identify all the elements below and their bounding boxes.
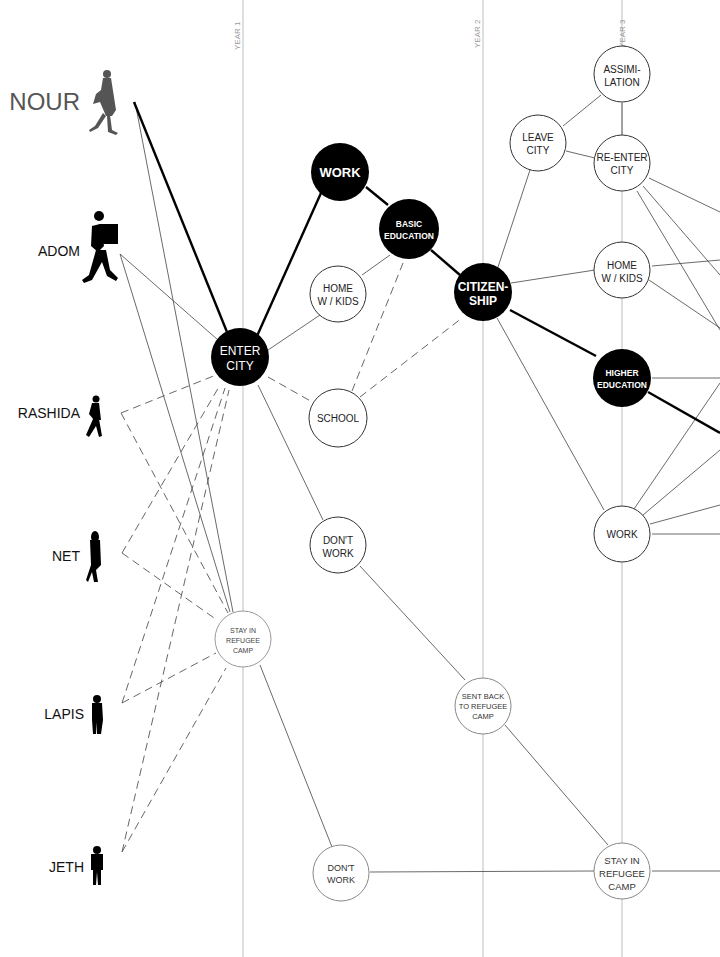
svg-text:CAMP: CAMP	[233, 647, 254, 654]
svg-text:JETH: JETH	[49, 859, 84, 875]
svg-text:CITIZEN-: CITIZEN-	[458, 280, 509, 294]
svg-text:NET: NET	[52, 548, 80, 564]
node-sent-back[interactable]: SENT BACK TO REFUGEE CAMP	[455, 678, 511, 734]
svg-text:CITY: CITY	[226, 359, 253, 373]
path-diagram: YEAR 1 YEAR 2 YEAR 3	[0, 0, 720, 957]
node-stay-camp-2[interactable]: STAY IN REFUGEE CAMP	[594, 843, 650, 899]
person-net[interactable]: NET	[52, 531, 101, 582]
node-dont-work-2[interactable]: DON'T WORK	[313, 845, 369, 901]
node-basic-education[interactable]: BASIC EDUCATION	[379, 199, 439, 259]
year2-label: YEAR 2	[473, 19, 482, 48]
node-assimilation[interactable]: ASSIMI- LATION	[594, 46, 650, 102]
node-work-1[interactable]: WORK	[311, 143, 369, 201]
svg-text:CITY: CITY	[611, 165, 634, 176]
person-lapis[interactable]: LAPIS	[44, 695, 103, 734]
man-carrying-box-icon	[82, 211, 118, 283]
node-home-kids-1[interactable]: HOME W / KIDS	[310, 266, 366, 322]
boy-standing-icon	[91, 846, 103, 885]
node-re-enter-city[interactable]: RE-ENTER CITY	[594, 135, 650, 191]
person-nour[interactable]: NOUR	[9, 70, 118, 135]
svg-text:LAPIS: LAPIS	[44, 706, 84, 722]
year-labels: YEAR 1 YEAR 2 YEAR 3	[233, 19, 627, 50]
svg-text:RASHIDA: RASHIDA	[18, 405, 81, 421]
svg-text:EDUCATION: EDUCATION	[384, 231, 434, 241]
svg-text:TO REFUGEE: TO REFUGEE	[459, 702, 508, 711]
child-standing-icon	[92, 695, 103, 734]
svg-text:ENTER: ENTER	[220, 344, 261, 358]
svg-text:BASIC: BASIC	[396, 219, 422, 229]
node-higher-education[interactable]: HIGHER EDUCATION	[593, 349, 651, 407]
svg-text:CITY: CITY	[527, 145, 550, 156]
node-work-2[interactable]: WORK	[594, 506, 650, 562]
svg-text:HIGHER: HIGHER	[605, 368, 638, 378]
girl-walking-icon	[86, 396, 102, 438]
svg-text:HOME: HOME	[323, 283, 353, 294]
svg-text:WORK: WORK	[606, 529, 637, 540]
svg-text:CAMP: CAMP	[472, 712, 494, 721]
svg-text:WORK: WORK	[322, 548, 353, 559]
people: NOUR ADOM RASHIDA	[9, 70, 118, 885]
svg-text:WORK: WORK	[327, 875, 355, 885]
svg-text:CAMP: CAMP	[608, 881, 635, 892]
nodes: ENTER CITY WORK BASIC EDUCATION CITIZEN-…	[211, 46, 651, 901]
node-leave-city[interactable]: LEAVE CITY	[510, 115, 566, 171]
node-stay-camp-1[interactable]: STAY IN REFUGEE CAMP	[215, 611, 271, 667]
svg-text:LEAVE: LEAVE	[522, 132, 554, 143]
edges-dashed	[121, 263, 462, 852]
person-adom[interactable]: ADOM	[38, 211, 118, 283]
girl-standing-icon	[86, 531, 101, 582]
svg-text:W / KIDS: W / KIDS	[317, 296, 358, 307]
svg-text:DON'T: DON'T	[327, 863, 355, 873]
svg-text:W / KIDS: W / KIDS	[601, 273, 642, 284]
year1-label: YEAR 1	[233, 21, 242, 50]
svg-text:LATION: LATION	[604, 77, 639, 88]
svg-text:STAY IN: STAY IN	[230, 627, 256, 634]
year3-label: YEAR 3	[618, 19, 627, 48]
svg-text:SHIP: SHIP	[469, 294, 497, 308]
svg-text:STAY IN: STAY IN	[604, 855, 640, 866]
svg-text:EDUCATION: EDUCATION	[597, 380, 647, 390]
svg-text:DON'T: DON'T	[323, 535, 353, 546]
svg-text:ASSIMI-: ASSIMI-	[603, 64, 640, 75]
person-jeth[interactable]: JETH	[49, 846, 103, 885]
woman-walking-icon	[89, 70, 118, 135]
svg-text:WORK: WORK	[319, 165, 361, 180]
svg-text:SCHOOL: SCHOOL	[317, 413, 360, 424]
svg-text:REFUGEE: REFUGEE	[226, 637, 260, 644]
svg-text:RE-ENTER: RE-ENTER	[596, 152, 647, 163]
node-citizenship[interactable]: CITIZEN- SHIP	[454, 263, 512, 321]
svg-text:HOME: HOME	[607, 260, 637, 271]
node-home-kids-2[interactable]: HOME W / KIDS	[594, 242, 650, 298]
svg-text:NOUR: NOUR	[9, 88, 80, 115]
node-enter-city[interactable]: ENTER CITY	[211, 328, 269, 386]
node-school[interactable]: SCHOOL	[309, 389, 367, 447]
node-dont-work-1[interactable]: DON'T WORK	[310, 517, 366, 573]
svg-text:REFUGEE: REFUGEE	[599, 868, 645, 879]
svg-text:ADOM: ADOM	[38, 243, 80, 259]
person-rashida[interactable]: RASHIDA	[18, 396, 102, 438]
svg-text:SENT BACK: SENT BACK	[462, 692, 504, 701]
